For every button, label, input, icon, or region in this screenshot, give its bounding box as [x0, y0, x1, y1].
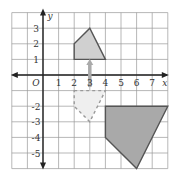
y-tick-label: 1: [33, 55, 39, 65]
x-tick-label: 7: [149, 78, 155, 88]
y-tick-label: 3: [33, 24, 39, 34]
y-tick-label: -4: [32, 133, 41, 143]
coordinate-plane: 1234567xyO321-2-3-4-5: [0, 0, 179, 179]
x-tick-label: 3: [87, 78, 93, 88]
x-tick-label: 6: [134, 78, 140, 88]
x-tick-label: 2: [71, 78, 77, 88]
x-tick-label: 1: [56, 78, 62, 88]
y-axis-label: y: [46, 11, 53, 21]
coordinate-diagram: 1234567xyO321-2-3-4-5: [0, 0, 179, 179]
x-tick-label: 5: [118, 78, 124, 88]
y-tick-label: -5: [32, 149, 41, 159]
y-tick-label: -2: [32, 102, 41, 112]
x-axis-label: x: [162, 78, 167, 88]
origin-label: O: [32, 78, 40, 88]
x-tick-label: 4: [103, 78, 109, 88]
y-axis-arrow-icon: [40, 9, 46, 16]
y-tick-label: -3: [32, 117, 41, 127]
y-tick-label: 2: [33, 39, 39, 49]
